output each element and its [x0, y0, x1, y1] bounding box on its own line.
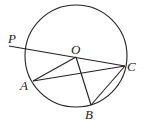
geometry-diagram: P O A B C	[0, 0, 144, 122]
line-pc	[9, 46, 125, 66]
segment-ob	[76, 57, 91, 105]
label-b: B	[85, 107, 93, 122]
label-c: C	[127, 59, 136, 74]
label-o: O	[71, 42, 81, 57]
segment-bc	[91, 66, 125, 105]
label-a: A	[19, 78, 28, 93]
label-p: P	[7, 31, 16, 46]
